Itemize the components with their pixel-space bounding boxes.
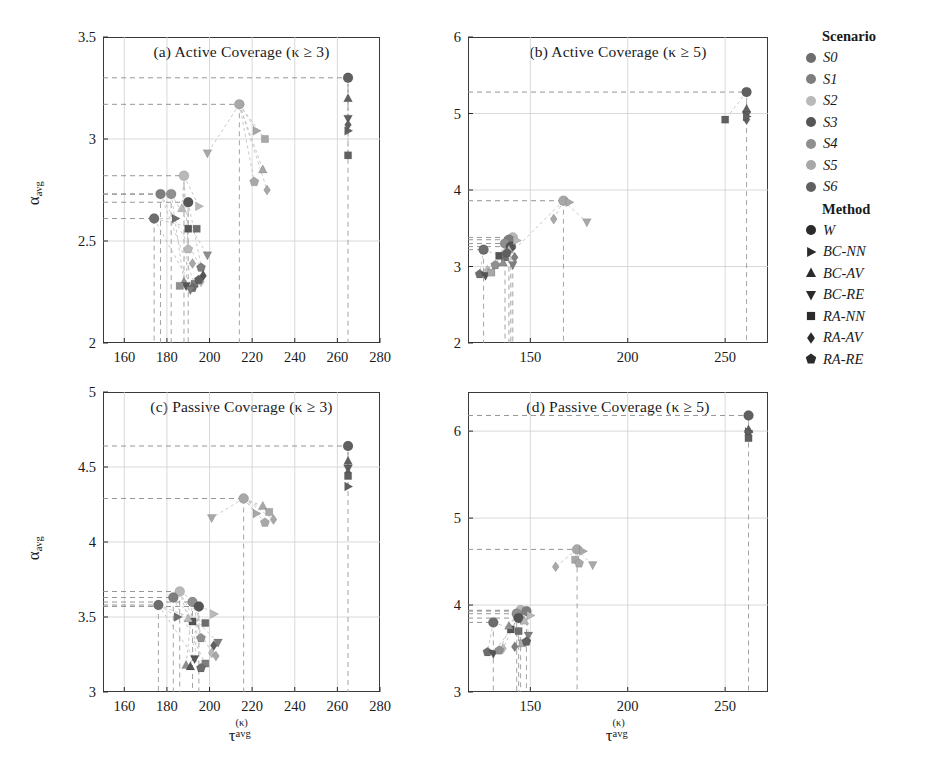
data-point-S4-W xyxy=(166,189,176,199)
legend-scenario-s0[interactable]: S0 xyxy=(800,47,930,69)
legend-method-label: RA-RE xyxy=(822,351,863,368)
legend-scenario-label: S4 xyxy=(822,135,838,152)
circle-marker-icon xyxy=(804,94,818,108)
legend-method-w[interactable]: W xyxy=(800,220,930,242)
legend-method-ra-av[interactable]: RA-AV xyxy=(800,327,930,349)
legend-scenario-label: S3 xyxy=(822,114,838,131)
legend-method-label: RA-NN xyxy=(822,308,865,325)
data-point-S2-W xyxy=(179,171,189,181)
legend-scenario-s3[interactable]: S3 xyxy=(800,112,930,134)
scenario-swatch-icon xyxy=(800,179,822,195)
legend-scenario-s6[interactable]: S6 xyxy=(800,176,930,198)
y-tick-label: 3 xyxy=(454,684,461,701)
method-swatch-icon xyxy=(800,308,822,324)
y-tick-label: 6 xyxy=(454,423,461,440)
legend-method-group: WBC-NNBC-AVBC-RERA-NNRA-AVRA-RE xyxy=(800,220,930,371)
x-tick-label: 280 xyxy=(369,349,391,366)
data-point-S3-BC-RE xyxy=(190,656,199,664)
data-point-S6-BC-AV xyxy=(344,93,353,101)
data-point-S1-RA-RE xyxy=(196,263,205,272)
legend-method-ra-re[interactable]: RA-RE xyxy=(800,349,930,371)
data-point-S5-W xyxy=(239,494,249,504)
data-point-S2-RA-RE xyxy=(184,244,193,253)
data-point-S5-BC-NN xyxy=(566,198,574,207)
y-tick-label: 3.5 xyxy=(78,609,96,626)
method-connector xyxy=(161,194,195,284)
circle-marker-icon xyxy=(804,137,818,151)
x-axis-symbol: τ xyxy=(229,726,236,745)
scenario-swatch-icon xyxy=(800,114,822,130)
data-point-S6-W xyxy=(744,411,754,421)
data-point-S5-RA-NN xyxy=(488,269,495,276)
method-swatch-icon xyxy=(800,330,822,346)
method-swatch-icon xyxy=(800,222,822,238)
x-axis-label-right: τ(κ)avg xyxy=(606,724,631,746)
data-point-S5-RA-AV xyxy=(552,562,559,572)
data-point-S1-BC-RE xyxy=(508,262,517,270)
y-axis-subscript: avg xyxy=(33,181,44,196)
panel-d: (d) Passive Coverage (κ ≥ 5) 34561502002… xyxy=(468,392,768,692)
x-tick-label: 200 xyxy=(617,349,639,366)
data-point-S6-RA-NN xyxy=(344,152,351,159)
x-tick-label: 200 xyxy=(199,349,221,366)
method-connector xyxy=(207,104,239,153)
triangle-up-marker-icon xyxy=(804,266,818,280)
data-point-S5-BC-NN xyxy=(580,547,588,556)
data-point-S6-W xyxy=(343,73,353,83)
data-point-S5-BC-RE xyxy=(582,219,591,227)
x-axis-superscript: (κ) xyxy=(613,717,625,728)
x-tick-label: 180 xyxy=(156,698,178,715)
y-tick-label: 4.5 xyxy=(78,459,96,476)
legend-scenario-title: Scenario xyxy=(822,28,930,45)
data-point-S4-RA-RE xyxy=(491,260,500,269)
y-tick-label: 3 xyxy=(89,684,96,701)
method-connector xyxy=(212,499,244,519)
legend-method-bc-av[interactable]: BC-AV xyxy=(800,263,930,285)
legend-scenario-s4[interactable]: S4 xyxy=(800,133,930,155)
legend-scenario-label: S6 xyxy=(822,178,838,195)
data-point-S1-RA-AV xyxy=(511,252,518,262)
y-axis-symbol: α xyxy=(24,551,43,560)
method-connector xyxy=(239,104,262,169)
legend-method-bc-nn[interactable]: BC-NN xyxy=(800,241,930,263)
x-tick-label: 150 xyxy=(519,698,541,715)
diamond-marker-icon xyxy=(804,331,818,345)
panel-c-canvas xyxy=(103,392,380,692)
method-swatch-icon xyxy=(800,265,822,281)
data-point-S6-BC-NN xyxy=(345,482,353,491)
x-axis-subscript: avg xyxy=(613,728,628,739)
legend-method-bc-re[interactable]: BC-RE xyxy=(800,284,930,306)
legend-scenario-s1[interactable]: S1 xyxy=(800,69,930,91)
legend-method-label: W xyxy=(822,222,835,239)
data-point-S0-W xyxy=(488,617,498,627)
panel-b-canvas xyxy=(468,37,768,343)
y-tick-label: 2 xyxy=(454,335,461,352)
panel-d-canvas xyxy=(468,392,768,692)
x-tick-label: 150 xyxy=(519,349,541,366)
data-point-S6-RA-NN xyxy=(722,116,729,123)
y-tick-label: 4 xyxy=(454,182,461,199)
legend-method-title: Method xyxy=(822,201,930,218)
x-tick-label: 180 xyxy=(156,349,178,366)
y-tick-label: 2.5 xyxy=(78,233,96,250)
x-tick-label: 220 xyxy=(241,698,263,715)
legend-method-label: RA-AV xyxy=(822,329,863,346)
data-point-S0-W xyxy=(149,214,159,224)
y-tick-label: 5 xyxy=(89,384,96,401)
panel-c: (c) Passive Coverage (κ ≥ 3) 33.544.5516… xyxy=(103,392,380,692)
data-point-S5-BC-NN xyxy=(253,126,261,135)
x-tick-label: 160 xyxy=(113,349,135,366)
data-point-S2-BC-NN xyxy=(195,202,203,211)
legend-method-ra-nn[interactable]: RA-NN xyxy=(800,306,930,328)
legend-scenario-s2[interactable]: S2 xyxy=(800,90,930,112)
legend-scenario-s5[interactable]: S5 xyxy=(800,155,930,177)
y-axis-label-top: αavg xyxy=(24,181,44,205)
legend-method-label: BC-NN xyxy=(822,243,866,260)
y-axis-symbol: α xyxy=(24,196,43,205)
scenario-swatch-icon xyxy=(800,157,822,173)
circle-marker-icon xyxy=(804,180,818,194)
circle-marker-icon xyxy=(804,115,818,129)
data-point-S1-W xyxy=(156,189,166,199)
data-point-S0-RA-NN xyxy=(202,619,209,626)
data-point-S6-BC-AV xyxy=(742,104,751,112)
